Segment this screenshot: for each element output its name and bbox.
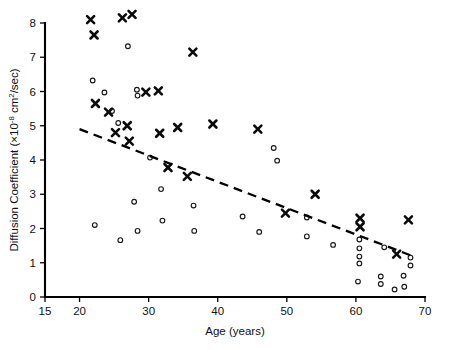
y-tick-label: 4 [30, 154, 37, 166]
x-tick-label: 60 [350, 305, 363, 317]
data-point-circle [257, 230, 262, 235]
data-point-circle [378, 274, 383, 279]
data-point-cross [87, 16, 94, 23]
y-tick-label: 8 [30, 17, 36, 29]
data-point-cross [142, 89, 149, 96]
y-axis-label: Diffusion Coefficient (×10-8 cm2/sec) [7, 68, 20, 251]
data-point-cross [209, 121, 216, 128]
data-point-circle [159, 187, 164, 192]
y-tick-label: 2 [30, 223, 36, 235]
x-tick-label: 30 [142, 305, 155, 317]
data-point-circle [357, 237, 362, 242]
x-tick-label: 50 [280, 305, 293, 317]
data-point-cross [112, 129, 119, 136]
data-point-cross [91, 31, 98, 38]
data-point-cross [357, 223, 364, 230]
data-point-circle [191, 203, 196, 208]
data-point-cross [312, 191, 319, 198]
data-point-circle [378, 282, 383, 287]
data-point-cross [393, 251, 400, 258]
data-point-circle [102, 90, 107, 95]
data-point-circle [116, 121, 121, 126]
data-point-circle [126, 44, 131, 49]
data-point-cross [124, 122, 131, 129]
data-point-circle [408, 255, 413, 260]
y-tick-label: 0 [30, 291, 36, 303]
data-point-cross [129, 11, 136, 18]
data-point-circle [392, 287, 397, 292]
data-point-cross [184, 173, 191, 180]
y-tick-label: 5 [30, 120, 36, 132]
x-tick-label: 40 [211, 305, 224, 317]
y-tick-label: 6 [30, 86, 36, 98]
data-point-cross [405, 216, 412, 223]
data-point-circle [135, 229, 140, 234]
cross-marker-series [87, 11, 412, 258]
circle-marker-series [90, 44, 413, 292]
dashed-regression-line [80, 129, 414, 256]
data-point-cross [155, 87, 162, 94]
data-point-circle [401, 273, 406, 278]
data-point-circle [275, 158, 280, 163]
data-point-circle [90, 78, 95, 83]
data-point-cross [156, 130, 163, 137]
data-point-cross [254, 126, 261, 133]
data-point-circle [356, 279, 361, 284]
y-tick-label: 3 [30, 188, 36, 200]
data-point-circle [271, 146, 276, 151]
data-point-cross [105, 109, 112, 116]
data-point-cross [92, 100, 99, 107]
data-point-circle [92, 223, 97, 228]
data-point-circle [192, 229, 197, 234]
plot-axes [45, 23, 425, 297]
x-axis-ticks: 15203040506070 [39, 297, 432, 317]
x-tick-label: 70 [419, 305, 432, 317]
data-point-circle [408, 263, 413, 268]
data-point-cross [282, 210, 289, 217]
data-point-cross [357, 215, 364, 222]
plot-canvas: 012345678 15203040506070 Age (years) Dif… [0, 0, 450, 350]
data-point-cross [126, 138, 133, 145]
x-tick-label: 20 [73, 305, 86, 317]
data-point-cross [189, 49, 196, 56]
data-point-circle [357, 261, 362, 266]
data-point-circle [331, 243, 336, 248]
data-point-circle [305, 234, 310, 239]
y-tick-label: 1 [30, 257, 36, 269]
data-point-circle [160, 218, 165, 223]
data-point-cross [174, 124, 181, 131]
data-point-circle [240, 214, 245, 219]
data-point-circle [382, 245, 387, 250]
y-axis-ticks: 012345678 [30, 17, 45, 303]
data-point-circle [132, 199, 137, 204]
scatter-plot-figure: 012345678 15203040506070 Age (years) Dif… [0, 0, 450, 350]
data-point-cross [119, 14, 126, 21]
data-point-circle [357, 254, 362, 259]
y-tick-label: 7 [30, 51, 36, 63]
x-tick-label: 15 [39, 305, 52, 317]
data-point-circle [135, 87, 140, 92]
data-point-circle [118, 238, 123, 243]
data-point-cross [164, 164, 171, 171]
data-point-circle [402, 284, 407, 289]
data-point-circle [135, 93, 140, 98]
data-point-circle [357, 246, 362, 251]
x-axis-label: Age (years) [205, 325, 265, 337]
